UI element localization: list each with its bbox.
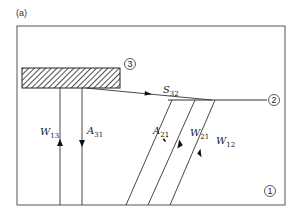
w21-label: W21 bbox=[190, 127, 209, 141]
a21-ray bbox=[126, 100, 172, 205]
a31-arrow-icon bbox=[79, 140, 85, 147]
w21-ray bbox=[148, 100, 195, 205]
surface-1-label: 1 bbox=[267, 186, 272, 196]
surface-3-label: 3 bbox=[127, 59, 132, 69]
surface-2-label: 2 bbox=[271, 95, 276, 105]
hatched-block bbox=[22, 68, 120, 88]
a31-label: A31 bbox=[86, 125, 103, 139]
w12-arrow-icon bbox=[197, 149, 201, 157]
w12-label: W12 bbox=[216, 135, 235, 149]
surface-2-marker: 2 bbox=[269, 95, 280, 106]
w21-arrow-icon bbox=[177, 140, 182, 149]
surface-3-marker: 3 bbox=[125, 59, 136, 70]
enclosure-frame bbox=[17, 26, 285, 205]
radiation-exchange-diagram: 3 2 1 W13 A31 S32 A21 W21 W12 bbox=[0, 0, 301, 218]
w13-arrow-icon bbox=[57, 139, 63, 146]
s32-arrow-icon bbox=[145, 91, 153, 96]
w12-ray bbox=[170, 100, 215, 205]
w13-label: W13 bbox=[40, 126, 59, 140]
surface-1-marker: 1 bbox=[265, 186, 276, 197]
